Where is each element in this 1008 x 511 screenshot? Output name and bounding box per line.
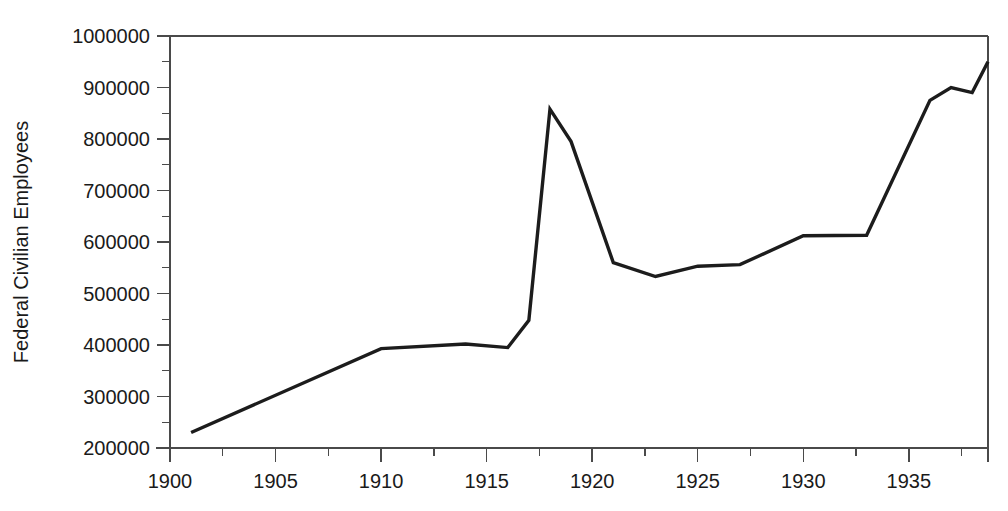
x-tick-label: 1920 xyxy=(570,470,615,492)
y-tick-label: 1000000 xyxy=(72,25,150,47)
y-tick-label: 600000 xyxy=(83,231,150,253)
x-tick-label: 1925 xyxy=(675,470,720,492)
x-tick-label: 1915 xyxy=(464,470,509,492)
y-tick-label: 800000 xyxy=(83,128,150,150)
x-tick-label: 1935 xyxy=(887,470,932,492)
y-axis-tick-labels: 2000003000004000005000006000007000008000… xyxy=(72,25,150,459)
line-chart: 2000003000004000005000006000007000008000… xyxy=(0,0,1008,511)
x-tick-label: 1900 xyxy=(148,470,193,492)
x-tick-label: 1910 xyxy=(359,470,404,492)
y-tick-label: 200000 xyxy=(83,437,150,459)
x-tick-label: 1905 xyxy=(253,470,298,492)
y-axis-title: Federal Civilian Employees xyxy=(10,121,32,363)
x-tick-label: 1930 xyxy=(781,470,826,492)
y-tick-label: 700000 xyxy=(83,180,150,202)
y-tick-label: 500000 xyxy=(83,283,150,305)
y-tick-label: 900000 xyxy=(83,77,150,99)
chart-canvas: 2000003000004000005000006000007000008000… xyxy=(0,0,1008,511)
y-tick-label: 300000 xyxy=(83,386,150,408)
chart-background xyxy=(0,0,1008,511)
y-tick-label: 400000 xyxy=(83,334,150,356)
